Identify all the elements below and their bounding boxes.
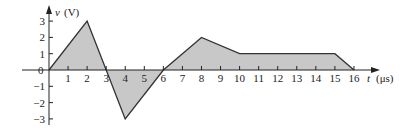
x-axis-unit-label: (μs) bbox=[376, 72, 394, 85]
y-tick-label: 3 bbox=[40, 15, 46, 27]
y-axis-arrow-icon bbox=[46, 5, 52, 14]
y-tick-label: −3 bbox=[33, 113, 45, 125]
x-tick-label: 10 bbox=[234, 72, 246, 84]
waveform-plot: 12345678910111213141516 321−1−2−3 0 v (V… bbox=[0, 0, 407, 135]
x-tick-label: 1 bbox=[65, 72, 71, 84]
x-tick-label: 13 bbox=[291, 72, 303, 84]
x-tick-label: 12 bbox=[272, 72, 283, 84]
x-tick-label: 3 bbox=[103, 72, 109, 84]
x-tick-label: 2 bbox=[84, 72, 90, 84]
x-tick-label: 16 bbox=[348, 72, 360, 84]
x-tick-label: 11 bbox=[253, 72, 264, 84]
y-tick-label: −2 bbox=[33, 97, 45, 109]
x-tick-label: 9 bbox=[218, 72, 224, 84]
x-tick-label: 4 bbox=[122, 72, 128, 84]
x-tick-label: 5 bbox=[142, 72, 148, 84]
y-axis-unit-label: (V) bbox=[64, 6, 80, 19]
y-tick-label: 1 bbox=[40, 48, 46, 60]
x-tick-label: 8 bbox=[199, 72, 205, 84]
y-tick-label: 2 bbox=[40, 31, 46, 43]
y-axis-var-label: v bbox=[55, 6, 60, 18]
origin-label: 0 bbox=[38, 64, 44, 76]
y-tick-label: −1 bbox=[33, 80, 45, 92]
x-axis-var-label: t bbox=[367, 72, 371, 84]
x-tick-label: 15 bbox=[329, 72, 341, 84]
x-tick-label: 14 bbox=[310, 72, 322, 84]
x-tick-label: 7 bbox=[180, 72, 186, 84]
x-tick-label: 6 bbox=[161, 72, 167, 84]
